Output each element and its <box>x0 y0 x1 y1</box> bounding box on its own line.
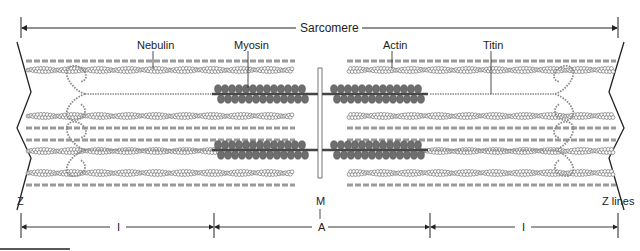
myosin-head <box>415 85 422 93</box>
myosin-head <box>345 141 352 149</box>
myosin-head <box>281 95 288 103</box>
titin-loop <box>554 66 573 120</box>
i-band-right-label: I <box>519 221 528 233</box>
myosin-head <box>278 85 285 93</box>
myosin-head <box>222 85 229 93</box>
myosin-head <box>352 141 359 149</box>
myosin-head <box>408 85 415 93</box>
myosin-head <box>260 151 267 159</box>
myosin-head <box>401 85 408 93</box>
myosin-head <box>232 151 239 159</box>
myosin-head <box>295 95 302 103</box>
myosin-head <box>341 151 348 159</box>
z-label: Z <box>17 195 24 207</box>
myosin-head <box>229 141 236 149</box>
myosin-head <box>359 85 366 93</box>
myosin-head <box>366 141 373 149</box>
myosin-head <box>348 95 355 103</box>
myosin-head <box>376 151 383 159</box>
myosin-head <box>394 85 401 93</box>
myosin-label: Myosin <box>234 39 269 51</box>
myosin-head <box>229 85 236 93</box>
myosin-head <box>250 141 257 149</box>
myosin-head <box>215 141 222 149</box>
myosin-head <box>362 151 369 159</box>
myosin-head <box>387 85 394 93</box>
myosin-head <box>292 85 299 93</box>
myosin-head <box>218 151 225 159</box>
myosin-head <box>274 95 281 103</box>
myosin-head <box>215 85 222 93</box>
myosin-head <box>222 141 229 149</box>
myosin-head <box>415 141 422 149</box>
myosin-head <box>390 151 397 159</box>
myosin-head <box>362 95 369 103</box>
myosin-head <box>348 151 355 159</box>
myosin-head <box>387 141 394 149</box>
myosin-head <box>239 151 246 159</box>
myosin-head <box>288 151 295 159</box>
myosin-head <box>345 85 352 93</box>
sarcomere-diagram: Sarcomere Nebulin Myosin Actin Titin Z Z… <box>0 0 640 251</box>
myosin-head <box>278 141 285 149</box>
myosin-head <box>411 95 418 103</box>
myosin-head <box>338 85 345 93</box>
myosin-head <box>288 95 295 103</box>
myosin-head <box>338 141 345 149</box>
myosin-head <box>390 95 397 103</box>
myosin-head <box>267 151 274 159</box>
myosin-head <box>292 141 299 149</box>
myosin-head <box>253 95 260 103</box>
myosin-head <box>341 95 348 103</box>
myosin-head <box>285 141 292 149</box>
titin-label: Titin <box>483 39 503 51</box>
myosin-head <box>267 95 274 103</box>
myosin-head <box>331 85 338 93</box>
myosin-head <box>257 85 264 93</box>
myosin-head <box>225 95 232 103</box>
myosin-head <box>239 95 246 103</box>
myosin-head <box>383 95 390 103</box>
myosin-head <box>236 85 243 93</box>
m-line-label: M <box>316 195 325 207</box>
myosin-head <box>299 85 306 93</box>
myosin-head <box>369 95 376 103</box>
m-line <box>318 68 322 178</box>
myosin-head <box>257 141 264 149</box>
myosin-head <box>394 141 401 149</box>
myosin-head <box>253 151 260 159</box>
myosin-head <box>232 95 239 103</box>
myosin-head <box>352 85 359 93</box>
myosin-head <box>404 151 411 159</box>
myosin-head <box>401 141 408 149</box>
myosin-head <box>373 85 380 93</box>
myosin-head <box>225 151 232 159</box>
myosin-head <box>299 141 306 149</box>
myosin-head <box>331 141 338 149</box>
myosin-head <box>366 85 373 93</box>
myosin-head <box>271 141 278 149</box>
myosin-head <box>397 95 404 103</box>
myosin-head <box>418 95 425 103</box>
myosin-head <box>380 85 387 93</box>
sarcomere-drawing <box>0 0 640 251</box>
myosin-head <box>418 151 425 159</box>
myosin-head <box>380 141 387 149</box>
i-band-left-label: I <box>114 221 123 233</box>
myosin-head <box>250 85 257 93</box>
myosin-head <box>334 151 341 159</box>
myosin-head <box>383 151 390 159</box>
myosin-head <box>355 95 362 103</box>
myosin-head <box>408 141 415 149</box>
myosin-head <box>285 85 292 93</box>
myosin-head <box>264 141 271 149</box>
myosin-head <box>369 151 376 159</box>
myosin-head <box>243 141 250 149</box>
myosin-head <box>246 151 253 159</box>
myosin-head <box>246 95 253 103</box>
myosin-head <box>359 141 366 149</box>
myosin-head <box>236 141 243 149</box>
actin-label: Actin <box>383 39 407 51</box>
myosin-head <box>260 95 267 103</box>
z-lines-label: Z lines <box>602 195 634 207</box>
